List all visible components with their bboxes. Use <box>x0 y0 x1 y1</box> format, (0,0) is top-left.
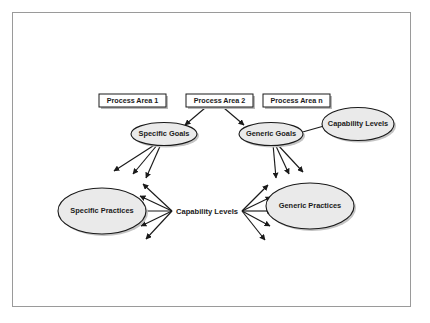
edge-generic-goals-to-practices-1 <box>273 144 276 178</box>
specific-goals-label: Specific Goals <box>139 129 190 138</box>
node-generic-practices[interactable]: Generic Practices <box>266 183 356 231</box>
node-specific-goals[interactable]: Specific Goals <box>131 123 199 148</box>
process-area-1-label: Process Area 1 <box>107 96 159 105</box>
node-process-area-2[interactable]: Process Area 2 <box>186 94 255 109</box>
node-specific-practices[interactable]: Specific Practices <box>58 188 148 236</box>
node-process-area-1[interactable]: Process Area 1 <box>99 94 168 109</box>
node-capability-levels-ellipse[interactable]: Capability Levels <box>322 108 396 143</box>
edge-center-to-specific-practices-5 <box>146 211 172 239</box>
edge-center-to-specific-practices-1 <box>143 184 172 211</box>
edge-center-to-generic-practices-1 <box>242 185 268 211</box>
edge-center-to-generic-practices-5 <box>242 211 265 240</box>
node-process-area-n[interactable]: Process Area n <box>263 94 332 109</box>
capability-levels-ellipse-label: Capability Levels <box>328 119 388 128</box>
diagram-svg: Process Area 1 Process Area 2 Process Ar… <box>0 0 430 323</box>
generic-goals-label: Generic Goals <box>246 129 296 138</box>
edge-center-to-generic-practices-4 <box>242 211 270 226</box>
node-generic-goals[interactable]: Generic Goals <box>239 123 305 148</box>
generic-practices-label: Generic Practices <box>279 201 341 210</box>
process-area-2-label: Process Area 2 <box>194 96 246 105</box>
edge-generic-goals-to-practices-2 <box>275 144 289 174</box>
edge-group-process-area-to-goals <box>185 108 244 125</box>
diagram-canvas: Process Area 1 Process Area 2 Process Ar… <box>0 0 430 323</box>
process-area-n-label: Process Area n <box>270 96 322 105</box>
edge-pa2-to-specific-goals <box>185 108 205 125</box>
edge-group-generic-goals-to-generic-practices <box>273 144 303 178</box>
specific-practices-label: Specific Practices <box>70 206 133 215</box>
capability-levels-center-label: Capability Levels <box>176 207 238 216</box>
edge-pa2-to-generic-goals <box>224 108 244 125</box>
node-capability-levels-center[interactable]: Capability Levels <box>176 207 238 216</box>
edge-group-specific-goals-to-specific-practices <box>114 144 161 178</box>
edge-specific-goals-to-practices-1 <box>114 144 156 171</box>
